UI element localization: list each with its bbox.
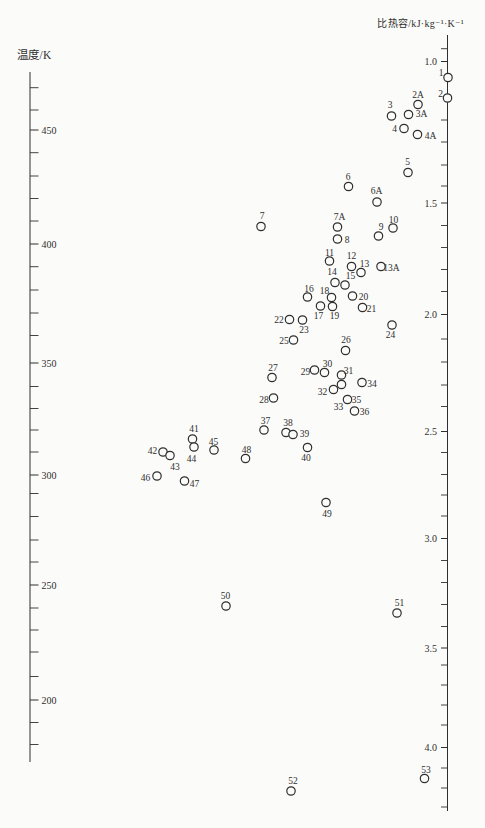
point-label-18: 18 [320, 286, 330, 296]
point-label-6A: 6A [371, 186, 383, 196]
point-label-52: 52 [288, 776, 298, 786]
point-marker-36 [350, 407, 358, 415]
nomograph-page: 温度/K 比热容/kJ·kg⁻¹·K⁻¹ 4504003503002502001… [0, 0, 485, 828]
point-label-34: 34 [367, 379, 377, 389]
point-marker-6 [344, 182, 352, 190]
point-label-23: 23 [299, 325, 309, 335]
point-label-38: 38 [283, 418, 293, 428]
point-label-46: 46 [141, 473, 151, 483]
point-label-35: 35 [352, 395, 362, 405]
point-label-2: 2 [438, 89, 443, 99]
right-axis-tick-label: 4.0 [425, 742, 438, 753]
point-marker-19 [328, 302, 336, 310]
point-label-50: 50 [221, 591, 231, 601]
point-label-13: 13 [360, 259, 370, 269]
point-label-7: 7 [260, 211, 265, 221]
point-label-14: 14 [327, 267, 337, 277]
point-marker-16 [303, 293, 311, 301]
point-marker-30 [320, 368, 328, 376]
point-marker-53 [420, 774, 428, 782]
point-label-2A: 2A [412, 90, 424, 100]
point-label-27: 27 [268, 363, 278, 373]
point-label-40: 40 [301, 453, 311, 463]
point-marker-50 [222, 602, 230, 610]
point-marker-10 [389, 224, 397, 232]
point-marker-21 [358, 303, 366, 311]
point-marker-24 [388, 321, 396, 329]
point-marker-34 [358, 378, 366, 386]
point-marker-45 [210, 446, 218, 454]
point-marker-17 [316, 302, 324, 310]
right-axis-tick-label: 2.5 [425, 426, 438, 437]
point-marker-39 [289, 430, 297, 438]
point-label-49: 49 [322, 509, 332, 519]
point-label-4: 4 [392, 124, 397, 134]
point-marker-12 [347, 262, 355, 270]
point-label-17: 17 [314, 311, 324, 321]
point-marker-44 [190, 443, 198, 451]
left-axis-tick-label: 300 [42, 470, 57, 481]
point-marker-2 [443, 94, 451, 102]
left-axis-tick-label: 250 [42, 580, 57, 591]
point-marker-43 [166, 451, 174, 459]
point-marker-9 [374, 232, 382, 240]
point-label-28: 28 [259, 395, 269, 405]
point-marker-49 [322, 498, 330, 506]
point-label-47: 47 [190, 479, 200, 489]
point-label-51: 51 [395, 598, 405, 608]
point-label-3A: 3A [416, 109, 428, 119]
point-marker-13 [357, 268, 365, 276]
point-marker-27 [268, 373, 276, 381]
point-label-42: 42 [148, 446, 158, 456]
point-marker-20 [348, 292, 356, 300]
point-label-3: 3 [388, 100, 393, 110]
point-marker-37 [260, 426, 268, 434]
point-marker-7A [333, 223, 341, 231]
point-marker-1 [444, 73, 452, 81]
point-label-53: 53 [421, 765, 431, 775]
point-label-37: 37 [261, 416, 271, 426]
point-label-16: 16 [304, 284, 314, 294]
point-label-20: 20 [359, 292, 369, 302]
point-marker-4A [413, 130, 421, 138]
point-label-12: 12 [347, 251, 357, 261]
point-marker-14 [331, 278, 339, 286]
right-axis-tick-label: 3.0 [425, 533, 438, 544]
point-label-41: 41 [189, 424, 199, 434]
point-marker-51 [393, 609, 401, 617]
point-marker-23 [298, 316, 306, 324]
point-label-6: 6 [346, 172, 351, 182]
point-label-1: 1 [439, 68, 444, 78]
point-label-25: 25 [279, 336, 289, 346]
point-label-4A: 4A [425, 131, 437, 141]
left-axis-tick-label: 350 [42, 358, 57, 369]
point-label-19: 19 [330, 311, 340, 321]
point-marker-52 [287, 787, 295, 795]
right-axis-tick-label: 1.5 [425, 198, 438, 209]
point-marker-8 [333, 235, 341, 243]
point-label-15: 15 [346, 271, 356, 281]
point-label-43: 43 [170, 462, 180, 472]
point-label-9: 9 [379, 222, 384, 232]
point-marker-26 [341, 346, 349, 354]
point-label-32: 32 [318, 387, 328, 397]
point-label-45: 45 [209, 437, 219, 447]
point-label-31: 31 [344, 366, 354, 376]
point-label-33: 33 [334, 402, 344, 412]
left-axis-tick-label: 200 [42, 695, 57, 706]
point-marker-41 [188, 435, 196, 443]
point-marker-47 [180, 477, 188, 485]
point-marker-4 [400, 124, 408, 132]
left-axis-tick-label: 450 [42, 125, 57, 136]
point-marker-15 [341, 281, 349, 289]
point-label-30: 30 [323, 359, 333, 369]
point-label-8: 8 [345, 235, 350, 245]
point-label-13A: 13A [383, 263, 400, 273]
point-label-36: 36 [360, 407, 370, 417]
left-axis-tick-label: 400 [42, 239, 57, 250]
point-marker-35 [343, 395, 351, 403]
point-label-48: 48 [242, 445, 252, 455]
point-marker-3A [404, 110, 412, 118]
point-marker-25 [289, 336, 297, 344]
right-axis-tick-label: 1.0 [425, 56, 438, 67]
